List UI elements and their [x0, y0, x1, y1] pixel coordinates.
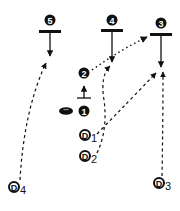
defender-d1: D 1 [80, 130, 97, 144]
svg-text:1: 1 [81, 107, 86, 117]
receiver-3-block [150, 33, 172, 67]
defender-d2: D 2 [80, 151, 97, 165]
svg-text:D: D [11, 183, 18, 193]
defender-route-d1 [97, 73, 156, 134]
defender-d3: D 3 [154, 178, 171, 192]
svg-text:3: 3 [165, 180, 171, 192]
defender-route-d2 [97, 66, 110, 153]
pass-route-2-to-3 [92, 37, 147, 70]
defender-route-d4 [20, 63, 46, 180]
svg-text:5: 5 [47, 16, 52, 26]
offense-player-5: 5 [45, 15, 56, 26]
svg-text:3: 3 [158, 19, 163, 29]
offense-player-3: 3 [156, 18, 167, 29]
offense-player-2: 2 [79, 68, 90, 79]
svg-text:2: 2 [81, 69, 86, 79]
svg-text:2: 2 [91, 153, 97, 165]
defender-route-d3 [162, 72, 163, 176]
svg-text:D: D [82, 131, 89, 141]
svg-text:1: 1 [91, 132, 97, 144]
offense-player-4: 4 [107, 15, 118, 26]
defender-d4: D 4 [9, 182, 26, 196]
svg-text:4: 4 [20, 184, 26, 196]
svg-text:4: 4 [109, 16, 114, 26]
football-icon [59, 107, 73, 115]
svg-text:D: D [82, 152, 89, 162]
svg-text:D: D [156, 179, 163, 189]
offense-player-1: 1 [79, 106, 90, 117]
receiver-5-block [39, 30, 61, 56]
play-diagram: 5 4 3 2 1 D 1 D 2 D 3 D 4 [0, 0, 180, 211]
player-2-up-arrow [77, 86, 91, 98]
